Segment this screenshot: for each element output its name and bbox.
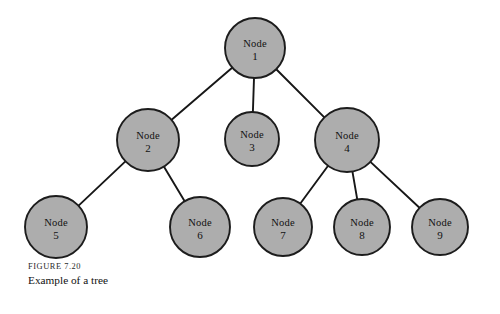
node-group: Node1Node2Node3Node4Node5Node6Node7Node8… bbox=[25, 18, 468, 258]
node-label-word-2: Node bbox=[136, 130, 160, 141]
tree-node-1[interactable]: Node1 bbox=[225, 18, 285, 78]
node-label-word-8: Node bbox=[350, 217, 374, 228]
tree-edge-2-5 bbox=[78, 161, 126, 207]
tree-edge-1-3 bbox=[253, 77, 254, 113]
figure-container: Node1Node2Node3Node4Node5Node6Node7Node8… bbox=[0, 0, 500, 314]
tree-edge-4-7 bbox=[300, 165, 329, 204]
node-label-word-6: Node bbox=[188, 217, 212, 228]
tree-node-9[interactable]: Node9 bbox=[412, 199, 468, 255]
node-label-word-3: Node bbox=[240, 129, 264, 140]
node-label-word-1: Node bbox=[243, 38, 267, 49]
node-label-number-9: 9 bbox=[437, 229, 443, 241]
node-label-number-3: 3 bbox=[249, 141, 255, 153]
tree-edge-2-6 bbox=[163, 166, 185, 202]
tree-edge-1-2 bbox=[171, 67, 233, 121]
tree-node-7[interactable]: Node7 bbox=[254, 198, 312, 256]
tree-node-8[interactable]: Node8 bbox=[334, 199, 390, 255]
tree-node-3[interactable]: Node3 bbox=[225, 112, 279, 166]
figure-title: Example of a tree bbox=[28, 273, 248, 287]
node-label-number-6: 6 bbox=[197, 229, 203, 241]
node-label-number-5: 5 bbox=[53, 229, 59, 241]
tree-node-4[interactable]: Node4 bbox=[315, 108, 379, 172]
figure-caption: FIGURE 7.20 Example of a tree bbox=[28, 261, 248, 287]
tree-edge-4-9 bbox=[370, 161, 421, 208]
node-label-number-1: 1 bbox=[252, 50, 258, 62]
node-label-number-2: 2 bbox=[145, 142, 151, 154]
tree-node-5[interactable]: Node5 bbox=[25, 196, 87, 258]
node-label-word-7: Node bbox=[271, 217, 295, 228]
tree-node-6[interactable]: Node6 bbox=[170, 197, 230, 257]
node-label-word-9: Node bbox=[428, 217, 452, 228]
tree-edge-1-4 bbox=[276, 69, 326, 119]
tree-node-2[interactable]: Node2 bbox=[117, 109, 179, 171]
node-label-number-4: 4 bbox=[344, 142, 350, 154]
figure-number-label: FIGURE 7.20 bbox=[28, 261, 248, 273]
node-label-word-5: Node bbox=[44, 217, 68, 228]
node-label-number-8: 8 bbox=[359, 229, 365, 241]
node-label-number-7: 7 bbox=[280, 229, 286, 241]
tree-edge-4-8 bbox=[352, 171, 357, 201]
node-label-word-4: Node bbox=[335, 130, 359, 141]
